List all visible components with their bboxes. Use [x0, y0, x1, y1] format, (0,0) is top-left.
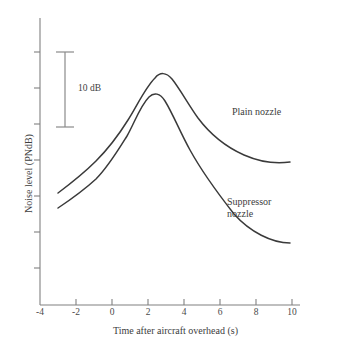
x-tick-label-0: -4 — [36, 308, 44, 318]
scalebar-10db — [56, 52, 74, 127]
x-tick-label-4: 4 — [182, 308, 187, 318]
y-axis-ticks — [34, 52, 40, 268]
x-tick-label-3: 2 — [146, 308, 151, 318]
series-label-plain-nozzle: Plain nozzle — [232, 106, 281, 118]
x-axis-title: Time after aircraft overhead (s) — [0, 325, 351, 336]
x-tick-label-2: 0 — [110, 308, 115, 318]
scalebar-label: 10 dB — [78, 83, 101, 93]
series-label-suppressor-line1: Suppressor — [227, 196, 271, 207]
chart-figure: -4 -2 0 2 4 6 8 10 Time after aircraft o… — [0, 0, 351, 349]
x-axis-ticks — [76, 299, 292, 305]
y-axis-title: Noise level (PNdB) — [23, 104, 34, 244]
series-label-suppressor-nozzle: Suppressor nozzle — [227, 196, 271, 220]
x-tick-label-5: 6 — [218, 308, 223, 318]
x-tick-label-7: 10 — [287, 308, 297, 318]
chart-plot-area — [0, 0, 351, 349]
x-tick-label-6: 8 — [254, 308, 259, 318]
series-label-suppressor-line2: nozzle — [227, 208, 253, 219]
x-tick-label-1: -2 — [72, 308, 80, 318]
